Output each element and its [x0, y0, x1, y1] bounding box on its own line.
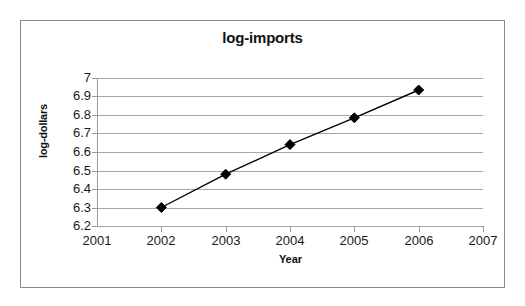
y-axis-tick: [92, 208, 97, 209]
x-axis-tick-label: 2006: [389, 234, 449, 248]
data-point-marker: [349, 113, 359, 123]
y-axis-tick: [92, 96, 97, 97]
y-axis-tick: [92, 115, 97, 116]
y-axis-tick: [92, 133, 97, 134]
y-axis-tick-label: 6.2: [45, 219, 91, 232]
data-series-line: [97, 78, 483, 226]
x-axis-tick-label: 2001: [67, 234, 127, 248]
chart-title: log-imports: [21, 29, 504, 46]
y-axis-tick-label: 6.8: [45, 108, 91, 121]
y-axis-tick-label: 6.9: [45, 89, 91, 102]
x-axis-tick: [161, 227, 162, 232]
y-axis-tick-label: 6.7: [45, 126, 91, 139]
data-point-marker: [285, 140, 295, 150]
y-axis-tick: [92, 226, 97, 227]
x-axis-tick: [226, 227, 227, 232]
chart-container: log-imports log-dollars 76.96.86.76.66.5…: [20, 20, 505, 288]
y-axis-tick-label: 7: [45, 71, 91, 84]
x-axis-tick: [290, 227, 291, 232]
y-axis-tick: [92, 78, 97, 79]
y-axis-tick-label: 6.4: [45, 182, 91, 195]
x-axis-tick-label: 2002: [131, 234, 191, 248]
x-axis-tick: [483, 227, 484, 232]
x-axis-tick-label: 2003: [196, 234, 256, 248]
y-axis-tick-labels: 76.96.86.76.66.56.46.36.2: [37, 21, 91, 289]
data-point-marker: [221, 169, 231, 179]
x-axis-tick-label: 2004: [260, 234, 320, 248]
plot-area: [97, 78, 483, 226]
y-axis-tick: [92, 152, 97, 153]
x-axis-tick: [354, 227, 355, 232]
data-point-marker: [156, 203, 166, 213]
y-axis-tick: [92, 171, 97, 172]
y-axis-tick-label: 6.5: [45, 164, 91, 177]
x-axis-tick-label: 2005: [324, 234, 384, 248]
x-axis-title: Year: [97, 253, 484, 265]
y-axis-tick-label: 6.6: [45, 145, 91, 158]
x-axis-tick-label: 2007: [453, 234, 513, 248]
y-axis-tick: [92, 189, 97, 190]
x-axis-tick: [419, 227, 420, 232]
data-point-marker: [414, 85, 424, 95]
y-axis-tick-label: 6.3: [45, 201, 91, 214]
